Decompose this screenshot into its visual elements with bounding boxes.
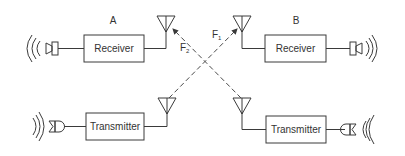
duplex-radio-diagram: A B Receiver Transmitter — [0, 0, 405, 156]
station-a-label: A — [110, 15, 117, 26]
station-a-mic-waves — [33, 112, 44, 141]
connector-line — [144, 30, 166, 49]
station-b-transmitter-box: Transmitter — [266, 116, 326, 143]
receiver-label: Receiver — [276, 43, 316, 54]
antenna-icon — [157, 16, 175, 32]
station-a-receiver-box: Receiver — [84, 35, 144, 62]
speaker-icon — [46, 42, 58, 55]
connector-line — [144, 112, 167, 127]
antenna-icon — [158, 98, 176, 114]
speaker-icon — [350, 42, 362, 55]
antenna-icon — [233, 16, 251, 32]
receiver-label: Receiver — [94, 43, 134, 54]
station-b-label: B — [293, 15, 300, 26]
connector-line — [242, 30, 265, 49]
link-f1-path — [169, 29, 237, 98]
antenna-icon — [233, 98, 251, 114]
station-a-speaker-waves — [27, 35, 40, 62]
station-b-mic-waves — [363, 115, 374, 144]
station-b-speaker-waves — [366, 35, 377, 62]
link-f2-path — [173, 29, 241, 98]
station-b-receiver-box: Receiver — [265, 35, 326, 62]
connector-line — [242, 112, 266, 130]
link-f2-label: F2 — [180, 42, 190, 54]
station-a-transmitter-box: Transmitter — [86, 113, 144, 140]
transmitter-label: Transmitter — [90, 121, 141, 132]
microphone-icon — [49, 121, 65, 132]
link-f1-label: F1 — [212, 29, 222, 41]
transmitter-label: Transmitter — [271, 124, 322, 135]
